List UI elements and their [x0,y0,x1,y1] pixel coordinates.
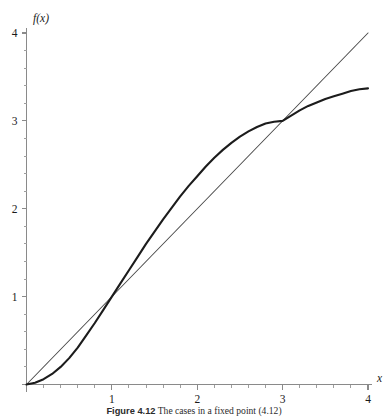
y-tick-label: 1 [12,291,18,303]
x-tick-label: 2 [194,393,200,405]
x-tick-label: 1 [109,393,115,405]
figure-caption-label: Figure 4.12 [106,406,155,416]
y-tick-label: 3 [12,115,18,127]
figure-container: 1234 1234 f(x) x Figure 4.12 The cases i… [0,0,388,418]
y-tick-label: 2 [12,203,18,215]
figure-caption: Figure 4.12 The cases in a fixed point (… [0,404,388,418]
x-tick-label: 3 [280,393,286,405]
series-function-curve [27,88,369,384]
y-axis-tick-labels: 1234 [12,27,18,303]
figure-caption-text: The cases in a fixed point (4.12) [158,405,282,416]
x-axis-label: x [376,372,383,384]
y-axis-label: f(x) [33,12,49,25]
x-axis-tick-labels: 1234 [109,393,371,405]
x-tick-label: 4 [365,393,371,405]
function-plot: 1234 1234 f(x) x [0,0,388,418]
y-tick-label: 4 [12,27,18,39]
series-identity-line [27,33,369,385]
